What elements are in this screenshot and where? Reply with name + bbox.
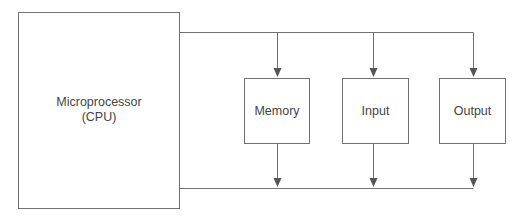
- memory-label: Memory: [244, 78, 310, 144]
- cpu-label: Microprocessor (CPU): [18, 12, 180, 208]
- output-label: Output: [439, 78, 506, 144]
- arrow-down-icon: [274, 68, 282, 77]
- cpu-label-line1: Microprocessor: [56, 95, 141, 110]
- arrow-down-icon: [370, 178, 378, 187]
- cpu-label-line2: (CPU): [82, 110, 117, 125]
- arrow-down-icon: [274, 178, 282, 187]
- input-label: Input: [342, 78, 409, 144]
- arrow-down-icon: [470, 178, 478, 187]
- arrow-down-icon: [370, 68, 378, 77]
- arrow-down-icon: [470, 68, 478, 77]
